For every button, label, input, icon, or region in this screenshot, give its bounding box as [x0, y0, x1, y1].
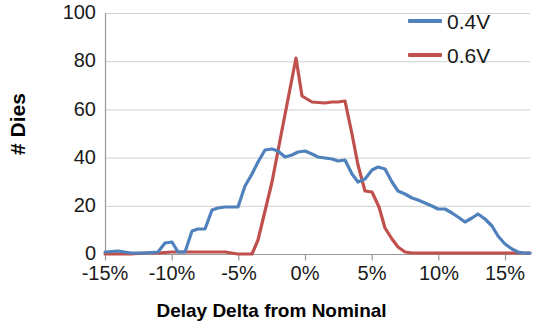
legend-item-0-4v[interactable]: 0.4V	[408, 4, 540, 38]
series-line-0-4v	[105, 149, 530, 253]
legend-item-0-6v[interactable]: 0.6V	[408, 38, 540, 72]
x-axis-title: Delay Delta from Nominal	[0, 300, 543, 322]
delay-delta-histogram-chart: # Dies 100 80 60 40 20 0	[0, 0, 543, 333]
x-axis-ticks	[106, 255, 506, 261]
x-tick-15: 15%	[460, 262, 543, 285]
legend-label-0-6v: 0.6V	[447, 45, 490, 66]
legend-swatch-0-4v	[408, 19, 442, 23]
legend-label-0-4v: 0.4V	[447, 11, 490, 32]
chart-legend: 0.4V 0.6V	[408, 4, 540, 72]
legend-swatch-0-6v	[408, 53, 442, 57]
